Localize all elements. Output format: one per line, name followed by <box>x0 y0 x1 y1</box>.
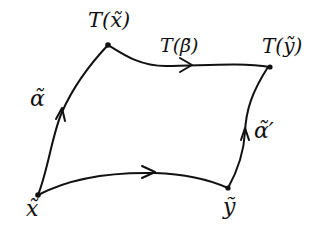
edge-alpha <box>38 45 108 195</box>
label-T-x-tilde: T(x̃) <box>88 10 130 31</box>
edge-beta <box>38 173 228 195</box>
vertex-y <box>225 185 230 190</box>
label-y-tilde: ỹ <box>223 196 235 218</box>
vertex-Ty <box>267 64 272 69</box>
label-T-y-tilde: T(ỹ) <box>262 36 302 56</box>
label-x-tilde: x̃ <box>26 198 38 220</box>
label-alpha-tilde-prime: α̃′ <box>254 120 274 142</box>
vertex-Tx <box>105 42 111 48</box>
label-alpha-tilde: α̃ <box>30 88 45 110</box>
label-T-beta-tilde: T(β̃) <box>160 36 198 55</box>
